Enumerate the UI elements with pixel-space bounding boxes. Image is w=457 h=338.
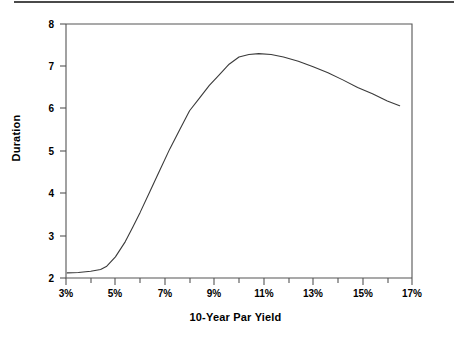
- y-tick-label: 6: [48, 103, 54, 114]
- y-tick-label: 8: [48, 19, 54, 30]
- duration-curve: [67, 54, 399, 273]
- x-tick-label: 3%: [59, 288, 74, 299]
- x-tick-label: 15%: [353, 288, 373, 299]
- x-tick-label: 5%: [108, 288, 123, 299]
- x-tick-label: 13%: [303, 288, 323, 299]
- y-tick-label: 2: [48, 273, 54, 284]
- y-tick-label: 5: [48, 146, 54, 157]
- x-tick-label: 9%: [207, 288, 222, 299]
- duration-line-chart: 2 3 4 5 6 7 8: [0, 0, 457, 338]
- y-axis-tick-labels: 2 3 4 5 6 7 8: [48, 19, 54, 284]
- x-axis-title: 10-Year Par Yield: [0, 311, 457, 323]
- x-tick-label: 17%: [402, 288, 422, 299]
- plot-frame: [66, 24, 412, 278]
- x-axis-minor-ticks: [91, 278, 388, 283]
- y-axis-ticks: [60, 24, 66, 278]
- x-tick-label: 11%: [254, 288, 274, 299]
- chart-figure: 2 3 4 5 6 7 8: [0, 0, 457, 338]
- y-tick-label: 4: [48, 188, 54, 199]
- x-tick-label: 7%: [158, 288, 173, 299]
- y-tick-label: 7: [48, 61, 54, 72]
- y-axis-title: Duration: [10, 103, 22, 173]
- y-tick-label: 3: [48, 231, 54, 242]
- x-axis-tick-labels: 3% 5% 7% 9% 11% 13% 15% 17%: [59, 288, 422, 299]
